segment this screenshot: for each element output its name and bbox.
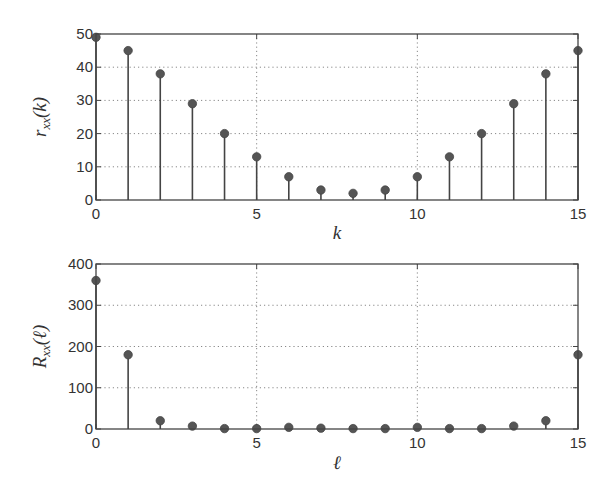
y-tick-label: 20: [76, 125, 93, 142]
plot-area: [96, 34, 578, 200]
x-tick-label: 5: [252, 205, 260, 222]
stem-marker: [156, 70, 164, 78]
stem-marker: [381, 186, 389, 194]
y-tick-label: 300: [68, 296, 93, 313]
x-tick-label: 0: [92, 434, 100, 451]
stem-marker: [124, 46, 132, 54]
stem-marker: [285, 423, 293, 431]
x-axis-label: k: [333, 222, 342, 243]
stem-marker: [317, 186, 325, 194]
x-tick-label: 10: [409, 205, 426, 222]
stem-marker: [252, 153, 260, 161]
stem-marker: [188, 100, 196, 108]
x-axis-label: ℓ: [333, 452, 341, 473]
stem-marker: [220, 129, 228, 137]
figure-canvas: 01020304050051015krxx(k) 010020030040005…: [0, 0, 614, 489]
bottom-stem-plot: 0100200300400051015ℓRxx(ℓ): [29, 255, 586, 473]
x-tick-label: 10: [409, 434, 426, 451]
y-tick-label: 50: [76, 25, 93, 42]
stem-marker: [477, 129, 485, 137]
y-tick-label: 40: [76, 58, 93, 75]
y-tick-label: 400: [68, 255, 93, 272]
stem-marker: [124, 351, 132, 359]
y-tick-label: 200: [68, 338, 93, 355]
stem-marker: [510, 100, 518, 108]
y-axis-label: rxx(k): [29, 97, 53, 137]
stem-marker: [156, 417, 164, 425]
x-tick-label: 5: [252, 434, 260, 451]
x-tick-label: 15: [570, 205, 587, 222]
stem-marker: [542, 417, 550, 425]
x-tick-label: 15: [570, 434, 587, 451]
stem-marker: [285, 173, 293, 181]
top-stem-plot: 01020304050051015krxx(k): [29, 25, 586, 243]
stem-marker: [317, 424, 325, 432]
stem-marker: [413, 423, 421, 431]
stem-marker: [349, 189, 357, 197]
y-tick-label: 10: [76, 158, 93, 175]
y-tick-label: 30: [76, 91, 93, 108]
y-tick-label: 100: [68, 379, 93, 396]
stem-marker: [413, 173, 421, 181]
y-axis-label: Rxx(ℓ): [29, 325, 53, 370]
x-tick-label: 0: [92, 205, 100, 222]
stem-marker: [445, 153, 453, 161]
stem-marker: [542, 70, 550, 78]
